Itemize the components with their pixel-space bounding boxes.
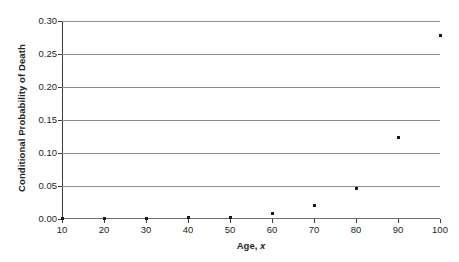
gridline bbox=[62, 21, 440, 22]
x-tick-mark bbox=[230, 219, 231, 223]
data-point bbox=[145, 217, 148, 220]
x-tick-label: 70 bbox=[294, 224, 334, 235]
x-tick-label: 40 bbox=[168, 224, 208, 235]
x-tick-label: 60 bbox=[252, 224, 292, 235]
y-tick-label: 0.05 bbox=[24, 181, 57, 191]
x-tick-label: 100 bbox=[420, 224, 459, 235]
scatter-chart: Conditional Probability of Death 0.000.0… bbox=[0, 0, 459, 262]
data-point bbox=[439, 34, 442, 37]
x-tick-label: 90 bbox=[378, 224, 418, 235]
x-tick-mark bbox=[398, 219, 399, 223]
y-axis-tick-labels: 0.000.050.100.150.200.250.30 bbox=[24, 0, 57, 262]
x-tick-label: 10 bbox=[42, 224, 82, 235]
data-point bbox=[271, 212, 274, 215]
y-tick-mark bbox=[58, 54, 62, 55]
gridline bbox=[62, 153, 440, 154]
y-tick-mark bbox=[58, 186, 62, 187]
gridline bbox=[62, 87, 440, 88]
x-tick-label: 30 bbox=[126, 224, 166, 235]
y-tick-label: 0.20 bbox=[24, 82, 57, 92]
x-tick-mark bbox=[314, 219, 315, 223]
x-tick-mark bbox=[356, 219, 357, 223]
y-tick-mark bbox=[58, 87, 62, 88]
y-tick-mark bbox=[58, 21, 62, 22]
data-point bbox=[355, 187, 358, 190]
x-tick-mark bbox=[272, 219, 273, 223]
x-tick-mark bbox=[440, 219, 441, 223]
data-point bbox=[61, 217, 64, 220]
data-point bbox=[229, 216, 232, 219]
x-tick-label: 50 bbox=[210, 224, 250, 235]
x-tick-label: 20 bbox=[84, 224, 124, 235]
y-tick-label: 0.30 bbox=[24, 16, 57, 26]
y-tick-label: 0.10 bbox=[24, 148, 57, 158]
data-point bbox=[313, 204, 316, 207]
data-point bbox=[397, 136, 400, 139]
y-tick-label: 0.15 bbox=[24, 115, 57, 125]
x-axis-tick-labels: 102030405060708090100 bbox=[62, 224, 440, 236]
gridline bbox=[62, 186, 440, 187]
y-tick-mark bbox=[58, 120, 62, 121]
plot-area bbox=[62, 21, 440, 219]
x-axis-line bbox=[62, 218, 440, 219]
y-tick-label: 0.25 bbox=[24, 49, 57, 59]
data-point bbox=[187, 216, 190, 219]
x-axis-title-prefix: Age, bbox=[237, 240, 258, 251]
data-point bbox=[103, 217, 106, 220]
y-tick-label: 0.00 bbox=[24, 214, 57, 224]
y-tick-mark bbox=[58, 153, 62, 154]
x-axis-title-variable: x bbox=[260, 240, 265, 251]
x-tick-label: 80 bbox=[336, 224, 376, 235]
x-tick-mark bbox=[188, 219, 189, 223]
x-axis-title: Age, x bbox=[62, 240, 440, 252]
gridline bbox=[62, 54, 440, 55]
gridline bbox=[62, 120, 440, 121]
